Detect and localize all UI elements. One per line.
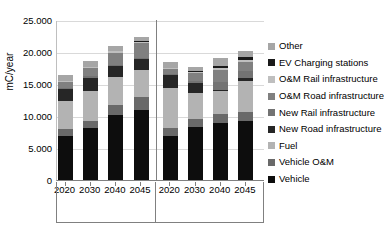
legend-item-label: Vehicle O&M — [279, 157, 334, 167]
legend-item[interactable]: Fuel — [268, 138, 384, 155]
legend-item[interactable]: New Road infrastructure — [268, 121, 384, 138]
legend-item[interactable]: Vehicle — [268, 171, 384, 188]
bar-segment — [238, 62, 253, 72]
bar-segment — [108, 66, 123, 77]
x-axis-group-divider — [263, 182, 264, 222]
stacked-bar-chart: mC/year 25.00020.00015.00010.0005.0000 2… — [0, 0, 384, 230]
bar-segment — [238, 71, 253, 78]
bar-segment — [83, 91, 98, 120]
legend-item[interactable]: New Rail infrastructure — [268, 104, 384, 121]
x-axis-group-divider — [56, 182, 57, 222]
x-axis-tick-label: 2030 — [76, 184, 103, 195]
bar-segment — [134, 110, 149, 180]
y-axis-tick-label: 5.000 — [14, 144, 52, 153]
legend-swatch-icon — [268, 93, 275, 100]
x-axis-tick-label: 2040 — [101, 184, 128, 195]
y-axis-tick-label: 20.000 — [14, 48, 52, 57]
bar-segment — [238, 121, 253, 180]
bar-segment — [213, 91, 228, 114]
bar-segment — [108, 115, 123, 180]
bar-segment — [188, 119, 203, 127]
bar-column[interactable] — [58, 75, 73, 180]
bar-segment — [134, 97, 149, 109]
bar-segment — [83, 68, 98, 77]
legend-swatch-icon — [268, 126, 275, 133]
bar-segment — [134, 43, 149, 58]
x-axis-tick-label: 2045 — [127, 184, 154, 195]
bar-segment — [238, 81, 253, 112]
legend-item-label: O&M Road infrastructure — [279, 91, 384, 101]
x-axis: 20202030204020452020203020402045 — [56, 182, 264, 228]
bar-segment — [213, 82, 228, 90]
legend-item-label: Vehicle — [279, 174, 310, 184]
legend-item[interactable]: O&M Road infrastructure — [268, 88, 384, 105]
legend-item[interactable]: Other — [268, 38, 384, 55]
legend-swatch-icon — [268, 76, 275, 83]
bar-segment — [213, 58, 228, 67]
bar-segment — [213, 114, 228, 122]
x-axis-tick-label: 2020 — [156, 184, 183, 195]
bar-segment — [83, 121, 98, 128]
bar-segment — [213, 123, 228, 180]
y-axis-tick-label: 10.000 — [14, 112, 52, 121]
legend-item[interactable]: Vehicle O&M — [268, 154, 384, 171]
legend-item-label: Fuel — [279, 141, 297, 151]
legend-item-label: O&M Rail infrastructure — [279, 74, 378, 84]
plot-area — [56, 21, 264, 181]
legend-item[interactable]: EV Charging stations — [268, 55, 384, 72]
legend-item-label: EV Charging stations — [279, 58, 368, 68]
y-axis-tick-label: 0 — [14, 176, 52, 185]
legend-swatch-icon — [268, 109, 275, 116]
bar-column[interactable] — [134, 37, 149, 180]
bar-segment — [163, 62, 178, 69]
legend-item-label: Other — [279, 41, 303, 51]
y-axis-title: mC/year — [4, 77, 15, 91]
legend-item[interactable]: O&M Rail infrastructure — [268, 71, 384, 88]
group-separator — [156, 20, 157, 180]
legend-item-label: New Rail infrastructure — [279, 108, 375, 118]
y-axis-tick-labels: 25.00020.00015.00010.0005.0000 — [14, 14, 52, 182]
bar-segment — [188, 83, 203, 94]
bar-segment — [238, 112, 253, 121]
bar-segment — [58, 129, 73, 136]
bar-segment — [108, 77, 123, 104]
legend-swatch-icon — [268, 142, 275, 149]
bar-column[interactable] — [213, 58, 228, 180]
bar-column[interactable] — [108, 46, 123, 180]
bar-segment — [188, 73, 203, 81]
bar-segment — [58, 136, 73, 180]
bar-segment — [134, 70, 149, 97]
legend-swatch-icon — [268, 176, 275, 183]
bar-segment — [58, 89, 73, 101]
legend-item-label: New Road infrastructure — [279, 124, 381, 134]
x-axis-tick-label: 2030 — [181, 184, 208, 195]
bar-segment — [83, 78, 98, 92]
bar-segment — [134, 59, 149, 70]
bar-segment — [188, 127, 203, 180]
legend-swatch-icon — [268, 59, 275, 66]
bar-segment — [108, 105, 123, 116]
x-axis-group-divider — [155, 182, 156, 222]
bar-segment — [108, 53, 123, 65]
x-axis-group-baseline — [56, 222, 264, 223]
bar-segment — [188, 93, 203, 119]
bars-layer — [57, 21, 264, 180]
x-axis-tick-label: 2045 — [231, 184, 258, 195]
y-axis-tick-label: 15.000 — [14, 80, 52, 89]
bar-segment — [83, 128, 98, 180]
bar-segment — [163, 128, 178, 136]
bar-column[interactable] — [163, 62, 178, 180]
bar-segment — [163, 75, 178, 87]
bar-segment — [163, 136, 178, 180]
legend-swatch-icon — [268, 159, 275, 166]
bar-column[interactable] — [83, 61, 98, 180]
bar-segment — [213, 70, 228, 82]
bar-column[interactable] — [238, 51, 253, 180]
bar-segment — [163, 88, 178, 128]
bar-segment — [58, 101, 73, 129]
bar-column[interactable] — [188, 67, 203, 180]
chart-legend: OtherEV Charging stationsO&M Rail infras… — [268, 38, 384, 187]
x-axis-tick-label: 2040 — [206, 184, 233, 195]
y-axis-tick-label: 25.000 — [14, 16, 52, 25]
y-axis-title-label: mC/year — [4, 53, 15, 91]
